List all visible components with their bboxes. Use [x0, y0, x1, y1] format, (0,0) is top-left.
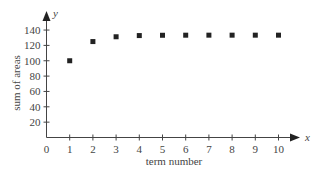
y-tick-label: 140: [24, 24, 41, 36]
x-axis-title: term number: [146, 155, 203, 167]
y-tick-label: 40: [30, 101, 42, 113]
x-tick-label: 4: [137, 143, 143, 155]
data-point: [230, 33, 235, 38]
y-axis-arrow-icon: [43, 11, 51, 21]
x-tick-label: 9: [253, 143, 259, 155]
data-point: [67, 58, 72, 63]
data-point: [183, 33, 188, 38]
x-tick-label: 10: [273, 143, 285, 155]
ticks: 01234567891020406080100120140: [24, 24, 285, 154]
data-point: [160, 33, 165, 38]
x-axis-arrow-icon: [290, 134, 300, 142]
x-tick-label: 7: [206, 143, 212, 155]
data-point: [253, 33, 258, 38]
data-point: [206, 33, 211, 38]
y-tick-label: 100: [24, 55, 41, 67]
x-tick-label: 2: [90, 143, 96, 155]
y-tick-label: 80: [30, 70, 42, 82]
x-tick-label: 0: [44, 143, 50, 155]
x-tick-label: 6: [183, 143, 189, 155]
x-tick-label: 3: [113, 143, 119, 155]
x-tick-label: 5: [160, 143, 166, 155]
y-axis-letter: y: [52, 7, 58, 19]
axes: [43, 11, 301, 142]
data-point: [90, 39, 95, 44]
x-tick-label: 1: [67, 143, 73, 155]
x-tick-label: 8: [229, 143, 235, 155]
y-axis-title: sum of areas: [10, 55, 22, 111]
y-tick-label: 60: [30, 85, 42, 97]
scatter-chart: 01234567891020406080100120140 term numbe…: [0, 0, 317, 171]
data-point: [276, 33, 281, 38]
y-tick-label: 120: [24, 39, 41, 51]
data-points: [67, 33, 281, 64]
y-tick-label: 20: [30, 116, 42, 128]
x-axis-letter: x: [304, 131, 310, 143]
data-point: [114, 34, 119, 39]
data-point: [137, 33, 142, 38]
